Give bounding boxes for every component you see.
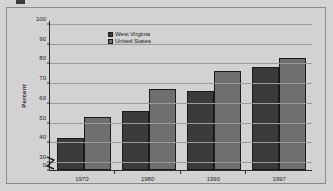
gridline [50,103,312,104]
legend-item-west-virginia: West Virginia [108,31,151,37]
x-axis-tick-mark [181,171,247,175]
x-axis-labels: 1970198019901997 [49,176,312,182]
x-axis-tick-mark [246,171,312,175]
y-axis-tick-label: 60 [39,95,46,101]
y-axis-tick-mark [47,43,50,44]
y-axis-tick-label: 30 [39,154,46,160]
y-axis-tick-label: 90 [39,36,46,42]
gridline [50,63,312,64]
gridline [50,24,312,25]
y-axis-tick-label: 100 [36,16,46,22]
y-axis-tick-label: 50 [39,115,46,121]
bar [214,71,241,170]
y-axis-title: Percent [21,84,27,107]
x-axis-tick-label: 1997 [246,176,312,182]
y-axis-tick-label: 80 [39,55,46,61]
plot-area: West Virginia United States 100908070605… [49,21,312,171]
y-axis-tick-mark [47,142,50,143]
bar-chart: Percent West Virginia United States 1009… [10,11,322,180]
legend-label-west-virginia: West Virginia [115,31,150,37]
scan-artifact [16,0,25,4]
bar [149,89,176,170]
x-axis-tick-label: 1980 [115,176,181,182]
y-axis-tick-mark [47,122,50,123]
scanned-figure-page: Percent West Virginia United States 1009… [0,0,333,191]
gridline [50,162,312,163]
x-axis-tick-label: 1970 [49,176,115,182]
y-axis-tick-mark [47,83,50,84]
gridline [50,44,312,45]
x-axis: 1970198019901997 [49,171,312,187]
y-axis-tick-mark [47,102,50,103]
axis-break-icon [46,154,55,172]
y-axis-tick-label: 40 [39,134,46,140]
y-axis-tick-mark [47,24,50,25]
gridline [50,142,312,143]
bar [279,58,306,170]
x-axis-tick-mark [115,171,181,175]
legend-swatch-icon-west-virginia [108,32,113,37]
y-axis-tick-label: 70 [39,75,46,81]
gridline [50,123,312,124]
x-axis-tick-mark [49,171,115,175]
x-axis-ticks [49,171,312,175]
gridline [50,83,312,84]
y-axis-tick-mark [47,63,50,64]
x-axis-tick-label: 1990 [181,176,247,182]
